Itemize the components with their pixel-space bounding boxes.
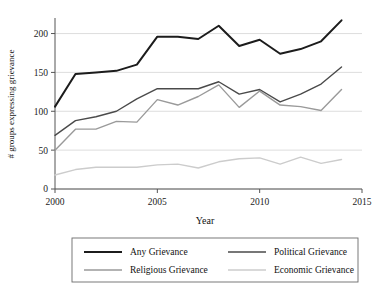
x-tick-label-2005: 2005 (148, 197, 167, 207)
line-chart: 050100150200 2000200520102015 Year # gro… (0, 0, 376, 288)
x-tick-label-2015: 2015 (353, 197, 372, 207)
data-series-group (55, 20, 342, 175)
x-axis-title: Year (196, 215, 215, 226)
gridlines (55, 34, 362, 189)
series-line-political-grievance (55, 67, 342, 135)
x-tick-labels: 2000200520102015 (46, 197, 372, 207)
chart-figure: 050100150200 2000200520102015 Year # gro… (0, 0, 376, 288)
legend-label-any-grievance: Any Grievance (130, 247, 188, 257)
series-line-economic-grievance (55, 157, 342, 175)
y-tick-label-200: 200 (34, 29, 49, 39)
y-axis-title: # groups expressing grievance (6, 49, 16, 158)
y-tick-labels: 050100150200 (34, 29, 49, 194)
y-tick-label-100: 100 (34, 107, 49, 117)
x-tick-label-2000: 2000 (46, 197, 65, 207)
y-tick-label-0: 0 (43, 184, 48, 194)
y-tick-marks (51, 34, 55, 189)
legend-label-political-grievance: Political Grievance (274, 247, 347, 257)
x-tick-marks (55, 189, 362, 193)
legend-label-economic-grievance: Economic Grievance (274, 265, 354, 275)
legend-label-religious-grievance: Religious Grievance (130, 265, 208, 275)
x-tick-label-2010: 2010 (250, 197, 269, 207)
y-tick-label-150: 150 (34, 68, 49, 78)
legend: Any GrievancePolitical GrievanceReligiou… (84, 247, 354, 275)
y-tick-label-50: 50 (39, 146, 49, 156)
